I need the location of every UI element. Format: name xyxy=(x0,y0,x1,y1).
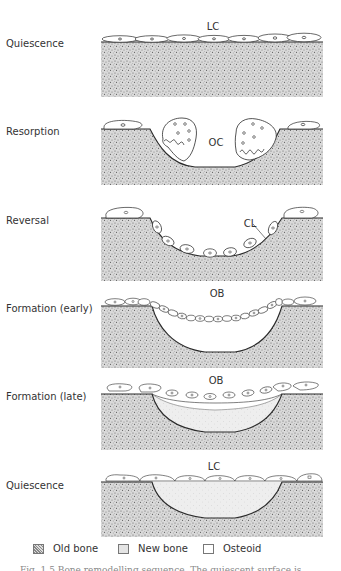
annotation-lc: LC xyxy=(207,21,220,32)
annotation-lc-final: LC xyxy=(208,461,221,472)
old-bone-region xyxy=(101,42,323,97)
panel-quiescence-initial xyxy=(101,33,323,97)
lining-cells xyxy=(102,33,321,42)
panel-quiescence-final xyxy=(101,474,323,537)
annotation-ob-late: OB xyxy=(209,375,224,386)
lining-cells xyxy=(104,120,320,129)
panel-resorption xyxy=(101,118,323,185)
osteoid-swatch-icon xyxy=(203,544,214,554)
annotation-cl: CL xyxy=(244,218,257,229)
legend-item-old-bone: Old bone xyxy=(33,543,98,554)
legend-label-osteoid: Osteoid xyxy=(223,543,261,554)
stage-label-formation-late: Formation (late) xyxy=(6,391,86,402)
stage-label-reversal: Reversal xyxy=(6,215,49,226)
annotation-oc: OC xyxy=(209,137,224,148)
stage-label-quiescence-final: Quiescence xyxy=(6,480,64,491)
legend: Old bone New bone Osteoid xyxy=(0,543,341,557)
panel-formation-early xyxy=(101,297,323,368)
panel-formation-late xyxy=(101,382,323,450)
legend-item-osteoid: Osteoid xyxy=(203,543,261,554)
stage-label-resorption: Resorption xyxy=(6,126,60,137)
stage-label-quiescence: Quiescence xyxy=(6,38,64,49)
lining-cells xyxy=(106,474,322,481)
figure-caption: Fig. 1.5 Bone remodelling sequence. The … xyxy=(20,563,301,571)
stage-label-formation-early: Formation (early) xyxy=(6,303,93,314)
new-bone-swatch-icon xyxy=(118,544,129,554)
legend-label-new-bone: New bone xyxy=(138,543,188,554)
annotation-ob-early: OB xyxy=(210,288,225,299)
panel-reversal xyxy=(101,207,323,281)
old-bone-swatch-icon xyxy=(33,544,44,554)
legend-item-new-bone: New bone xyxy=(118,543,188,554)
legend-label-old-bone: Old bone xyxy=(53,543,98,554)
